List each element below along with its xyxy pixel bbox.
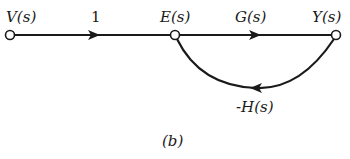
signal-flow-graph: V(s) 1 E(s) G(s) Y(s) -H(s) (b) [0, 0, 350, 159]
edge-e-to-y-gain: G(s) [235, 8, 267, 26]
node-e-label: E(s) [159, 8, 190, 26]
node-v [6, 31, 15, 40]
figure-caption: (b) [162, 132, 183, 150]
node-y-label: Y(s) [312, 8, 341, 26]
edge-feedback-gain: -H(s) [236, 98, 274, 116]
edge-y-to-e-feedback [177, 39, 334, 88]
edge-v-to-e-gain: 1 [91, 8, 101, 26]
node-y [332, 31, 341, 40]
node-e [171, 31, 180, 40]
node-v-label: V(s) [6, 8, 36, 26]
